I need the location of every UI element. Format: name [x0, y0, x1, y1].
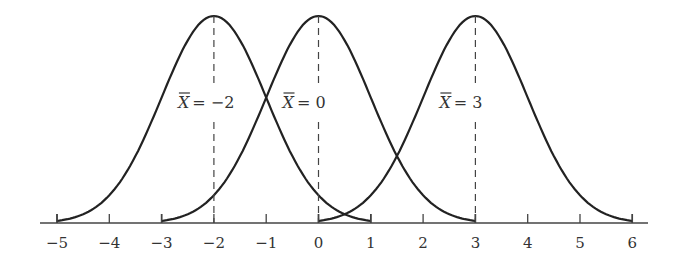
x-tick-label: −2	[203, 234, 225, 252]
x-tick-label: −4	[98, 234, 120, 252]
x-tick-label: 2	[418, 234, 428, 252]
x-tick-label: −5	[46, 234, 68, 252]
x-tick-label: 6	[628, 234, 638, 252]
mean-label: X= −2	[176, 93, 234, 112]
curves	[57, 16, 632, 223]
mean-label: X= 3	[437, 93, 482, 112]
x-tick-label: 0	[314, 234, 324, 252]
x-tick-label: 1	[366, 234, 376, 252]
normal-curves-chart: −5−4−3−2−10123456 X= −2X= 0X= 3	[0, 0, 681, 267]
mean-label: X= 0	[281, 93, 326, 112]
x-tick-label: 4	[523, 234, 533, 252]
x-tick-label: 5	[575, 234, 585, 252]
mean-lines	[214, 16, 476, 223]
curve-labels: X= −2X= 0X= 3	[176, 93, 483, 112]
x-tick-label: 3	[471, 234, 481, 252]
x-axis-ticks: −5−4−3−2−10123456	[46, 214, 637, 252]
x-tick-label: −1	[255, 234, 277, 252]
x-tick-label: −3	[151, 234, 173, 252]
